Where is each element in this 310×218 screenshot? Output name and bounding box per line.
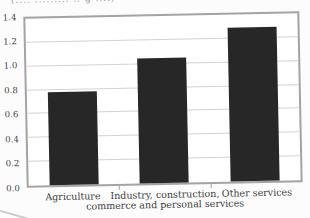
x-axis-label-line: Other services [222, 187, 292, 199]
x-axis-label-other-services: Other services [222, 187, 292, 199]
y-axis-tick-label-0.0: 0.0 [6, 184, 20, 193]
scanned-bar-chart-page: (.... ......... .. g ....) 0.00.20.40.60… [0, 0, 310, 218]
y-axis-tick-label-1.4: 1.4 [3, 13, 17, 22]
x-axis-label-line: commerce and personal services [86, 199, 244, 213]
y-axis-tick-label-0.2: 0.2 [6, 159, 20, 168]
y-axis-labels: 0.00.20.40.60.81.01.21.4 [0, 17, 23, 188]
y-axis-tick-label-0.6: 0.6 [5, 110, 19, 119]
y-axis-tick-label-1.0: 1.0 [4, 61, 18, 70]
y-axis-tick-label-0.4: 0.4 [5, 135, 19, 144]
bar-agriculture [48, 91, 99, 185]
plot-area [23, 11, 302, 188]
y-axis-tick-label-1.2: 1.2 [3, 37, 17, 46]
bars [25, 13, 300, 185]
x-axis-labels: AgricultureIndustry, construction,commer… [27, 187, 303, 218]
x-axis-label-industry-construction-commerce-and-personal-services: Industry, construction,commerce and pers… [86, 188, 244, 212]
bar-industry-construction-commerce-and-personal-services [138, 57, 190, 183]
clipped-top-caption: (.... ......... .. g ....) [11, 0, 116, 5]
y-axis-tick-label-0.8: 0.8 [4, 86, 18, 95]
bar-other-services [228, 27, 280, 182]
chart-figure: (.... ......... .. g ....) 0.00.20.40.60… [0, 0, 310, 218]
